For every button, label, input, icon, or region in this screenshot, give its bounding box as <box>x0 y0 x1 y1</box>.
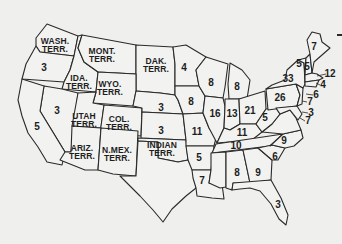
label-nj: 7 <box>307 98 313 106</box>
label-il: 16 <box>209 110 220 118</box>
label-utah: UTAH TERR. <box>71 112 97 128</box>
label-ga: 9 <box>255 169 261 177</box>
label-me: 7 <box>311 43 317 51</box>
label-ne: 3 <box>158 104 164 112</box>
label-vt: 5 <box>296 60 302 68</box>
label-ariz: ARIZ. TERR. <box>69 144 95 160</box>
label-in: 13 <box>226 110 237 118</box>
label-tn: 10 <box>230 142 241 150</box>
label-fl: 3 <box>275 201 281 209</box>
label-or: 3 <box>41 64 47 72</box>
label-dak: DAK. TERR. <box>143 57 169 73</box>
label-wyo: WYO. TERR. <box>97 80 123 96</box>
label-nv: 3 <box>54 107 60 115</box>
label-nh: 5 <box>304 63 310 71</box>
label-ia: 8 <box>188 98 194 106</box>
label-pa: 26 <box>274 94 285 102</box>
label-la: 7 <box>199 177 205 185</box>
label-mo: 11 <box>192 128 203 136</box>
label-ar: 5 <box>196 154 202 162</box>
label-ks: 3 <box>158 127 164 135</box>
label-oh: 21 <box>244 107 255 115</box>
label-wi: 8 <box>208 79 214 87</box>
label-ma: 12 <box>324 70 335 78</box>
label-nc: 9 <box>281 137 287 145</box>
label-mi: 8 <box>234 83 240 91</box>
label-ida: IDA. TERR. <box>66 74 92 90</box>
label-ri: 4 <box>320 81 326 89</box>
label-nmex: N.MEX. TERR. <box>102 146 132 162</box>
label-ky: 11 <box>237 129 248 137</box>
label-ct: 6 <box>313 91 319 99</box>
label-mn: 4 <box>181 64 187 72</box>
region-mississippi <box>209 152 226 188</box>
label-mont: MONT. TERR. <box>89 47 116 63</box>
label-ca: 5 <box>34 123 40 131</box>
margin-dash <box>337 34 342 36</box>
label-ind_t: INDIAN TERR. <box>147 141 177 157</box>
label-ny: 33 <box>282 75 293 83</box>
label-ms: 8 <box>234 169 240 177</box>
label-sc: 6 <box>272 153 278 161</box>
label-wash: WASH. TERR. <box>41 37 69 53</box>
label-wv: 5 <box>262 114 268 122</box>
label-md: 7 <box>305 117 311 125</box>
label-col: COL. TERR. <box>106 115 132 131</box>
